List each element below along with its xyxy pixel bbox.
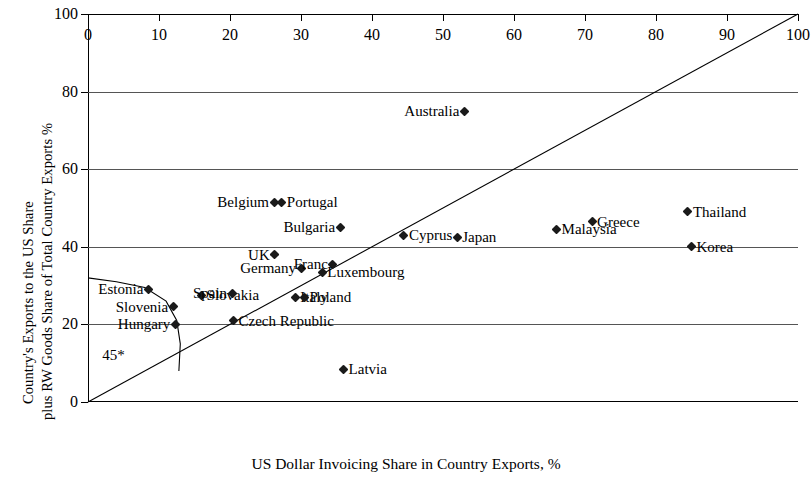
data-point-label: Estonia (98, 282, 143, 297)
x-tick-mark-100 (798, 14, 799, 21)
scatter-chart-figure: Country's Exports to the US Share plus R… (0, 0, 812, 486)
y-tick-label-0: 0 (70, 393, 78, 411)
data-point-label: Japan (462, 230, 496, 245)
data-point-label: Greece (597, 214, 639, 229)
data-point-label: Cyprus (409, 228, 452, 243)
data-point-label: Hungary (118, 317, 171, 332)
y-tick-mark-0 (81, 402, 88, 403)
data-point-label: Slovenia (116, 299, 169, 314)
annotation-45-degree: 45* (102, 347, 125, 364)
y-tick-label-60: 60 (62, 160, 78, 178)
x-axis-label: US Dollar Invoicing Share in Country Exp… (0, 455, 812, 473)
data-point-label: Korea (697, 239, 734, 254)
data-point-label: Poland (310, 290, 352, 305)
data-point-label: Bulgaria (283, 220, 335, 235)
data-point-label: Portugal (287, 195, 338, 210)
y-tick-mark-20 (81, 324, 88, 325)
data-point-label: Australia (404, 104, 459, 119)
data-point-label: Belgium (217, 195, 269, 210)
45-degree-line (88, 14, 798, 402)
y-tick-mark-40 (81, 247, 88, 248)
y-tick-label-80: 80 (62, 83, 78, 101)
y-axis-label-line1: Country's Exports to the US Share (20, 201, 37, 404)
y-tick-mark-80 (81, 92, 88, 93)
y-axis-label-line2: plus RW Goods Share of Total Country Exp… (39, 123, 56, 420)
y-tick-label-40: 40 (62, 238, 78, 256)
data-point-label: Germany (240, 261, 296, 276)
y-tick-label-20: 20 (62, 315, 78, 333)
data-point-label: Latvia (349, 362, 387, 377)
plot-area: 020406080100 0102030405060708090100 Esto… (88, 14, 798, 402)
reference-lines-overlay (88, 14, 798, 402)
data-point-label: Spain (193, 286, 227, 301)
data-point-label: Czech Republic (239, 313, 334, 328)
y-tick-label-100: 100 (54, 5, 78, 23)
data-point-label: Luxembourg (327, 265, 404, 280)
y-tick-mark-100 (81, 14, 88, 15)
y-tick-mark-60 (81, 169, 88, 170)
data-point-label: Thailand (693, 204, 746, 219)
